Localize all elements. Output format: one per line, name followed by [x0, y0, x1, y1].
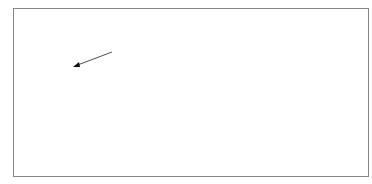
sierpinski-address-figure — [0, 0, 372, 184]
address-pointer-arrowhead — [73, 62, 80, 67]
figure-frame — [14, 9, 369, 177]
address-pointer-line — [75, 52, 112, 66]
